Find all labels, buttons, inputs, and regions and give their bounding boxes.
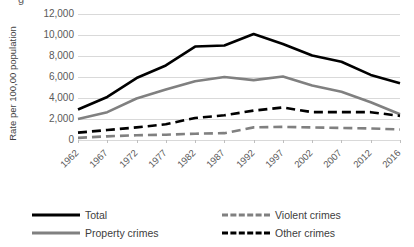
- legend-swatch-icon: [32, 209, 80, 221]
- x-axis-tick-mark: [283, 140, 284, 143]
- line-chart: g Rate per 100,00 population 12,00010,00…: [0, 0, 414, 247]
- y-axis-tick-label: 10,000: [22, 30, 74, 40]
- chart-legend: TotalProperty crimesViolent crimesOther …: [0, 205, 414, 247]
- x-axis-tick-mark: [107, 140, 108, 143]
- series-line-total: [78, 34, 400, 110]
- series-lines: [78, 14, 400, 140]
- x-axis-tick-label: 1997: [263, 147, 286, 170]
- legend-swatch-icon: [32, 227, 80, 239]
- x-axis-tick-label: 1967: [87, 147, 110, 170]
- legend-label: Other crimes: [275, 227, 335, 239]
- legend-item[interactable]: Violent crimes: [222, 209, 341, 221]
- x-axis-tick-mark: [312, 140, 313, 143]
- legend-swatch-icon: [222, 209, 270, 221]
- y-axis-title: Rate per 100,00 population: [7, 9, 18, 159]
- x-axis-tick-mark: [254, 140, 255, 143]
- x-axis-tick-mark: [166, 140, 167, 143]
- x-axis-tick-mark: [371, 140, 372, 143]
- x-axis-tick-label: 1987: [204, 147, 227, 170]
- x-axis-tick-mark: [341, 140, 342, 143]
- legend-item[interactable]: Property crimes: [32, 227, 159, 239]
- x-axis-tick-mark: [224, 140, 225, 143]
- x-axis-tick-label: 2007: [321, 147, 344, 170]
- legend-swatch-icon: [222, 227, 270, 239]
- legend-label: Property crimes: [85, 227, 159, 239]
- x-axis-tick-label: 1972: [117, 147, 140, 170]
- y-axis-tick-label: 4,000: [22, 93, 74, 103]
- x-axis-tick-labels: 1962196719721977198219871992199720022007…: [0, 140, 414, 185]
- y-axis-tick-label: 2,000: [22, 114, 74, 124]
- legend-item[interactable]: Other crimes: [222, 227, 335, 239]
- legend-label: Violent crimes: [275, 209, 341, 221]
- y-axis-tick-label: 8,000: [22, 51, 74, 61]
- x-axis-tick-label: 1962: [58, 147, 81, 170]
- y-axis-tick-label: 12,000: [22, 9, 74, 19]
- x-axis-tick-label: 1982: [175, 147, 198, 170]
- x-axis-tick-mark: [400, 140, 401, 143]
- x-axis-tick-mark: [78, 140, 79, 143]
- x-axis-tick-label: 1977: [146, 147, 169, 170]
- x-axis-tick-label: 1992: [234, 147, 257, 170]
- x-axis-tick-label: 2002: [292, 147, 315, 170]
- x-axis-tick-mark: [137, 140, 138, 143]
- plot-area: [78, 14, 400, 140]
- x-axis-tick-label: 2016: [380, 147, 403, 170]
- y-axis-tick-label: 6,000: [22, 72, 74, 82]
- x-axis-tick-mark: [195, 140, 196, 143]
- legend-label: Total: [85, 209, 107, 221]
- legend-item[interactable]: Total: [32, 209, 107, 221]
- x-axis-tick-label: 2012: [351, 147, 374, 170]
